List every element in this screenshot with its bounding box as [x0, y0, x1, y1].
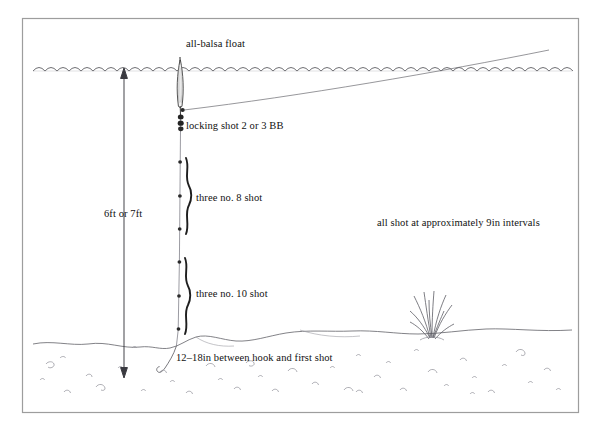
label-all-balsa-float: all-balsa float — [186, 38, 245, 49]
rig-diagram-svg — [0, 0, 597, 432]
label-three-no-8-shot: three no. 8 shot — [196, 192, 262, 203]
label-depth: 6ft or 7ft — [104, 208, 142, 219]
shot-no8-2 — [178, 194, 182, 197]
label-locking-shot: locking shot 2 or 3 BB — [186, 120, 284, 131]
locking-shot — [178, 115, 184, 132]
label-three-no-10-shot: three no. 10 shot — [196, 288, 268, 299]
shot-no8-3 — [178, 227, 182, 230]
shot-no10-2 — [177, 294, 181, 297]
figure-page: all-balsa float locking shot 2 or 3 BB t… — [0, 0, 597, 432]
shot-no10-3 — [177, 327, 181, 330]
label-shot-intervals: all shot at approximately 9in intervals — [377, 217, 540, 228]
label-hook-distance: 12–18in between hook and first shot — [176, 352, 333, 363]
shot-no8-1 — [178, 160, 182, 163]
shot-no10-1 — [178, 260, 182, 263]
